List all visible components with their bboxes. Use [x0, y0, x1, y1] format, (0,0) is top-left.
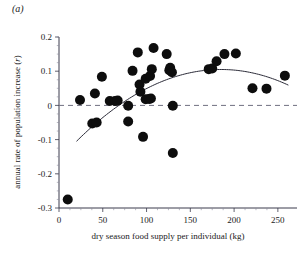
data-point [261, 84, 271, 94]
x-axis-title: dry season food supply per individual (k… [92, 231, 245, 241]
data-point [147, 64, 157, 74]
data-point [123, 116, 133, 126]
data-point [128, 66, 138, 76]
y-tick-label: -0.2 [38, 169, 52, 179]
data-point [63, 194, 73, 204]
scatter-plot: 0.20.10-0.1-0.2-0.3050100150200250 dry s… [0, 0, 305, 258]
y-tick-label: -0.3 [38, 203, 53, 213]
y-tick-label: -0.1 [38, 135, 52, 145]
data-point [75, 95, 85, 105]
data-point [113, 96, 123, 106]
x-tick-label: 50 [98, 215, 108, 225]
data-point [92, 118, 102, 128]
x-tick-label: 200 [227, 215, 241, 225]
data-point [219, 49, 229, 59]
data-point [90, 88, 100, 98]
data-point [168, 101, 178, 111]
data-point [231, 48, 241, 58]
x-tick-label: 100 [140, 215, 154, 225]
data-point [123, 101, 133, 111]
y-axis-title-text: annual rate of population increase [12, 67, 22, 189]
data-point [133, 47, 143, 57]
data-point [280, 71, 290, 81]
data-point [146, 94, 156, 104]
y-tick-label: 0 [48, 101, 53, 111]
data-point [167, 67, 177, 77]
y-axis-title: annual rate of population increase (r) [12, 55, 22, 189]
x-tick-label: 0 [57, 215, 62, 225]
data-point [97, 72, 107, 82]
y-tick-label: 0.2 [41, 32, 52, 42]
data-point [168, 148, 178, 158]
svg-text:annual rate of population incr: annual rate of population increase (r) [12, 55, 22, 189]
x-tick-label: 150 [184, 215, 198, 225]
data-point [247, 83, 257, 93]
data-point [162, 49, 172, 59]
data-point [212, 56, 222, 66]
x-tick-label: 250 [271, 215, 285, 225]
data-point [138, 132, 148, 142]
data-point [149, 43, 159, 53]
figure-panel: (a) 0.20.10-0.1-0.2-0.3050100150200250 d… [0, 0, 305, 258]
y-tick-label: 0.1 [41, 66, 52, 76]
